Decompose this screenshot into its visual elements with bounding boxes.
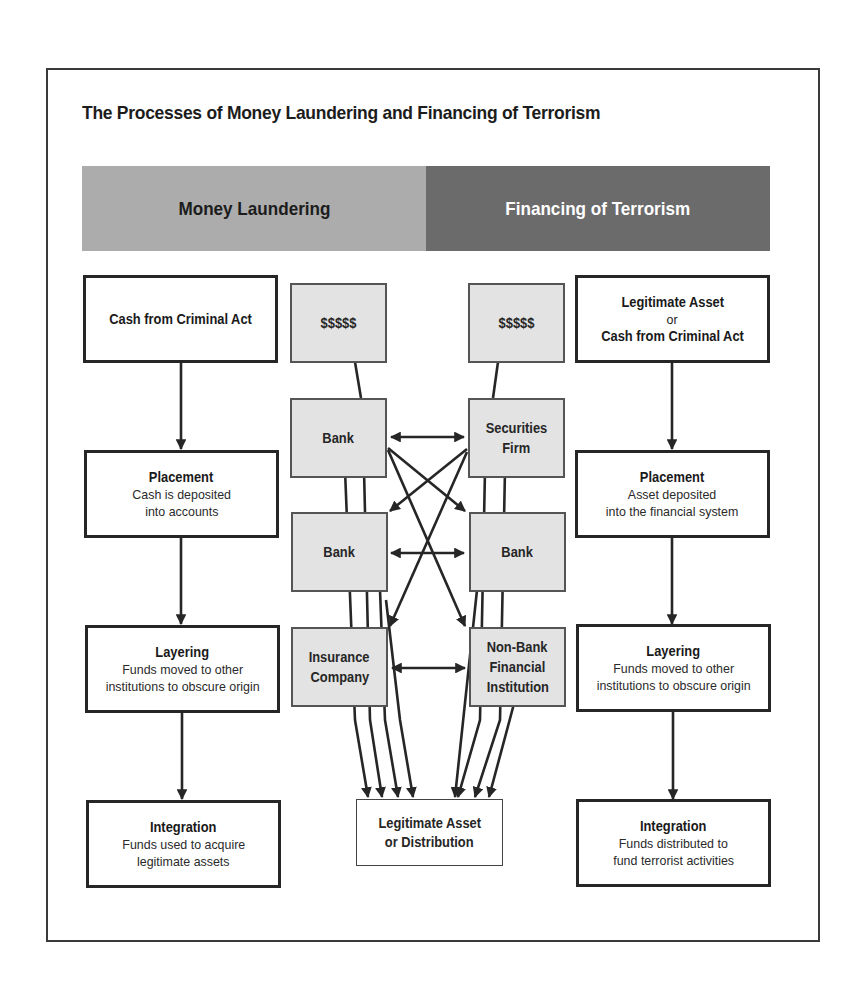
ml-placement-title: Placement — [149, 469, 213, 486]
inst-insurance-company: Insurance Company — [291, 627, 388, 707]
inst-left-bank-2-label: Bank — [324, 542, 355, 562]
inst-left-bank-1-label: Bank — [323, 428, 354, 448]
inst-nonbank-line-2: Financial — [490, 657, 546, 677]
ft-source-line-2: or — [667, 311, 678, 328]
inst-nonbank-line-3: Institution — [486, 677, 548, 697]
ft-source-line-3: Cash from Criminal Act — [601, 328, 744, 345]
ft-integration-desc-1: Funds distributed to — [619, 835, 728, 852]
inst-securities-line-2: Firm — [503, 438, 531, 458]
destination-box: Legitimate Asset or Distribution — [356, 799, 503, 866]
inst-insurance-line-1: Insurance — [309, 647, 370, 667]
ml-placement-desc-1: Cash is deposited — [132, 486, 231, 503]
link-cash-left — [355, 362, 361, 398]
inst-left-cash: $$$$$ — [290, 283, 387, 363]
inst-left-cash-label: $$$$$ — [321, 313, 357, 333]
inst-nonbank-line-1: Non-Bank — [487, 637, 548, 657]
inst-nonbank-financial: Non-Bank Financial Institution — [469, 627, 566, 707]
ft-integration-desc-2: fund terrorist activities — [613, 852, 734, 869]
ml-source-box: Cash from Criminal Act — [83, 275, 278, 363]
ft-source-line-1: Legitimate Asset — [621, 294, 724, 311]
ft-layering-desc-1: Funds moved to other — [613, 660, 734, 677]
inst-left-bank-1: Bank — [290, 398, 387, 478]
inst-left-bank-2: Bank — [291, 512, 388, 592]
ml-integration-desc-2: legitimate assets — [137, 853, 230, 870]
inst-right-cash-label: $$$$$ — [499, 313, 535, 333]
ml-integration-desc-1: Funds used to acquire — [122, 836, 245, 853]
ft-placement-desc-1: Asset deposited — [628, 486, 716, 503]
ft-layering-title: Layering — [647, 643, 701, 660]
ml-placement-desc-2: into accounts — [145, 503, 218, 520]
destination-line-1: Legitimate Asset — [378, 814, 481, 833]
ft-placement-title: Placement — [640, 469, 704, 486]
ft-source-box: Legitimate Asset or Cash from Criminal A… — [575, 275, 770, 363]
flow-right-4 — [489, 700, 515, 797]
inst-right-cash: $$$$$ — [468, 283, 565, 363]
ft-layering-desc-2: institutions to obscure origin — [597, 677, 751, 694]
inst-securities-line-1: Securities — [486, 418, 548, 438]
ml-layering-desc-1: Funds moved to other — [122, 661, 243, 678]
ft-placement-desc-2: into the financial system — [606, 503, 739, 520]
ml-layering-title: Layering — [156, 644, 210, 661]
inst-insurance-line-2: Company — [310, 667, 369, 687]
ml-integration-box: Integration Funds used to acquire legiti… — [86, 800, 281, 888]
ml-placement-box: Placement Cash is deposited into account… — [84, 450, 279, 538]
ft-placement-box: Placement Asset deposited into the finan… — [575, 450, 770, 538]
destination-line-2: or Distribution — [385, 833, 474, 852]
cross-bank-to-nonbank — [388, 450, 465, 626]
ml-layering-box: Layering Funds moved to other institutio… — [85, 625, 280, 713]
ml-integration-title: Integration — [150, 819, 217, 836]
link-cash-right — [493, 362, 498, 398]
inst-right-bank: Bank — [469, 512, 566, 592]
ft-layering-box: Layering Funds moved to other institutio… — [576, 624, 771, 712]
inst-right-bank-label: Bank — [502, 542, 533, 562]
inst-securities-firm: Securities Firm — [468, 398, 565, 478]
ml-source-title: Cash from Criminal Act — [109, 311, 252, 328]
ft-integration-box: Integration Funds distributed to fund te… — [576, 799, 771, 887]
ml-layering-desc-2: institutions to obscure origin — [106, 678, 260, 695]
flow-left-4 — [386, 600, 413, 797]
ft-integration-title: Integration — [640, 818, 707, 835]
